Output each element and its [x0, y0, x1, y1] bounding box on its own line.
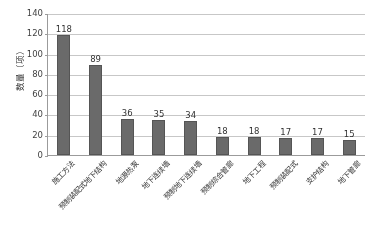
bar[interactable]: 35 [152, 120, 165, 156]
bar[interactable]: 89 [89, 65, 102, 155]
bar-value-label: 89 [90, 54, 101, 64]
y-tick-label: 80 [18, 70, 43, 79]
bar-value-label: 17 [312, 127, 323, 137]
x-axis-tick-label: 地源热泵 [112, 158, 140, 186]
bar-value-label: 36 [122, 108, 133, 118]
bar-value-label: 34 [185, 110, 196, 120]
bar-value-label: 118 [56, 24, 72, 34]
bar[interactable]: 36 [121, 119, 134, 156]
bar-value-label: 35 [154, 109, 165, 119]
bar-slot: 36 [111, 14, 143, 155]
bar-value-label: 15 [344, 129, 355, 139]
bar-slot: 18 [207, 14, 239, 155]
x-axis-tick-label: 地下工程 [239, 158, 267, 186]
bar-slot: 89 [80, 14, 112, 155]
x-axis-labels: 施工方法预制装配式地下结构地源热泵地下连续墙预制地下连续墙预制综合管廊地下工程预… [47, 158, 365, 242]
x-axis-tick-label: 预制综合管廊 [197, 158, 235, 196]
y-tick-mark [45, 156, 48, 157]
bar-slot: 118 [48, 14, 80, 155]
y-tick-label: 100 [18, 50, 43, 59]
bar-slot: 15 [333, 14, 365, 155]
bar[interactable]: 18 [216, 137, 229, 155]
bar-value-label: 18 [217, 126, 228, 136]
bar[interactable]: 18 [248, 137, 261, 155]
bar[interactable]: 15 [343, 140, 356, 155]
plot-area: 020406080100120140 118893635341818171715 [47, 14, 365, 156]
y-tick-label: 140 [18, 9, 43, 18]
y-tick-label: 20 [18, 131, 43, 140]
y-tick-label: 120 [18, 29, 43, 38]
bar[interactable]: 118 [57, 35, 70, 155]
bar-value-label: 17 [280, 127, 291, 137]
bar-chart: 数量（项） 020406080100120140 118893635341818… [0, 0, 380, 244]
bar[interactable]: 17 [279, 138, 292, 155]
bar-slot: 17 [302, 14, 334, 155]
y-tick-label: 40 [18, 110, 43, 119]
x-axis-tick-label: 预制装配式 [266, 158, 299, 191]
bar-slot: 18 [238, 14, 270, 155]
bar-slot: 35 [143, 14, 175, 155]
bar-slot: 34 [175, 14, 207, 155]
bar[interactable]: 17 [311, 138, 324, 155]
y-tick-label: 60 [18, 90, 43, 99]
bar-series: 118893635341818171715 [48, 14, 365, 155]
bar-slot: 17 [270, 14, 302, 155]
bar[interactable]: 34 [184, 121, 197, 155]
y-tick-label: 0 [18, 151, 43, 160]
x-axis-tick-label: 支护结构 [303, 158, 331, 186]
bar-value-label: 18 [249, 126, 260, 136]
x-axis-tick-label: 施工方法 [49, 158, 77, 186]
x-axis-tick-label: 地下管廊 [335, 158, 363, 186]
